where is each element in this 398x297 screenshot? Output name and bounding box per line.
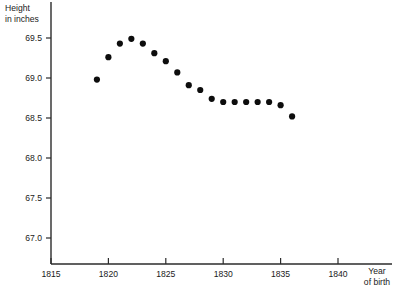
data-point — [243, 99, 249, 105]
y-tick-label: 67.0 — [25, 233, 42, 243]
x-tick-label: 1840 — [328, 269, 347, 279]
data-point — [197, 87, 203, 93]
data-point — [128, 36, 134, 42]
data-point — [232, 99, 238, 105]
chart-background — [0, 0, 398, 297]
data-point — [105, 54, 111, 60]
data-point — [140, 41, 146, 47]
data-point — [186, 82, 192, 88]
x-axis-title-line2: of birth — [364, 277, 390, 287]
x-axis-title-line1: Year — [368, 266, 386, 276]
y-axis-title-line2: in inches — [5, 14, 39, 24]
data-point — [151, 50, 157, 56]
data-point — [174, 69, 180, 75]
y-axis-title-line1: Height — [5, 3, 30, 13]
x-tick-label: 1835 — [271, 269, 290, 279]
x-tick-label: 1830 — [214, 269, 233, 279]
y-tick-label: 69.5 — [25, 33, 42, 43]
x-tick-label: 1815 — [41, 269, 60, 279]
chart-canvas: Height in inches Year of birth 67.067.56… — [0, 0, 398, 297]
y-tick-label: 69.0 — [25, 73, 42, 83]
data-point — [220, 99, 226, 105]
x-tick-label: 1825 — [156, 269, 175, 279]
y-tick-label: 67.5 — [25, 193, 42, 203]
data-point — [278, 102, 284, 108]
data-point — [209, 96, 215, 102]
data-point — [94, 77, 100, 83]
data-point — [289, 113, 295, 119]
scatter-chart: Height in inches Year of birth 67.067.56… — [0, 0, 398, 297]
data-point — [266, 99, 272, 105]
data-point — [163, 58, 169, 64]
x-tick-label: 1820 — [99, 269, 118, 279]
y-tick-label: 68.5 — [25, 113, 42, 123]
data-point — [255, 99, 261, 105]
data-point — [117, 41, 123, 47]
y-tick-label: 68.0 — [25, 153, 42, 163]
